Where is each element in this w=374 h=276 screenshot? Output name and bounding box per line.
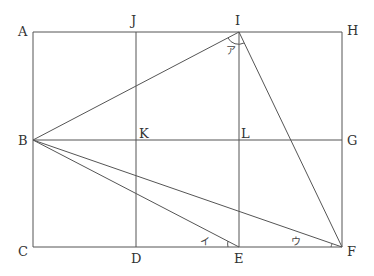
point-label-K: K [139, 126, 149, 141]
point-label-G: G [347, 133, 357, 148]
segment-BF [33, 140, 342, 247]
point-label-B: B [18, 133, 28, 148]
angle-arc-a [228, 38, 244, 44]
point-label-E: E [234, 251, 244, 266]
point-label-I: I [235, 13, 240, 28]
point-label-A: A [17, 24, 28, 39]
geometry-diagram: ア イ ウ A J I H B K L G C D E F [0, 0, 374, 276]
point-label-J: J [129, 13, 136, 28]
angle-label-i: イ [200, 236, 210, 247]
point-label-F: F [347, 244, 356, 259]
point-label-C: C [18, 244, 28, 259]
point-label-D: D [131, 251, 141, 266]
point-label-L: L [241, 126, 250, 141]
point-label-H: H [347, 23, 358, 38]
angle-label-u: ウ [291, 236, 301, 247]
angle-label-a: ア [226, 45, 236, 56]
